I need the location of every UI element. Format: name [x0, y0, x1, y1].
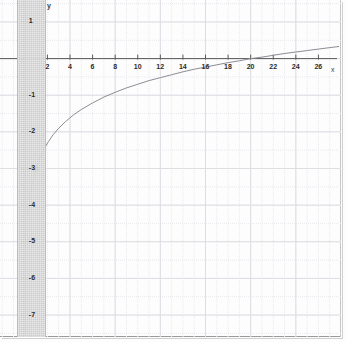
x-tick-label: 4 — [68, 63, 72, 70]
x-axis-label: x — [331, 66, 335, 73]
coordinate-plane-svg — [0, 0, 341, 337]
x-tick-label: 2 — [45, 63, 49, 70]
y-tick-label: -7 — [29, 311, 35, 318]
axes — [0, 0, 337, 335]
x-tick-label: 10 — [134, 63, 142, 70]
y-axis-label: y — [47, 2, 51, 9]
x-tick-label: 8 — [113, 63, 117, 70]
window-frame-right-shadow — [342, 2, 343, 338]
y-tick-label: -6 — [29, 274, 35, 281]
x-tick-label: 12 — [156, 63, 164, 70]
x-tick-label: 16 — [202, 63, 210, 70]
x-tick-label: 18 — [224, 63, 232, 70]
left-shaded-margin-edge-r — [45, 0, 46, 337]
y-tick-label: -5 — [29, 237, 35, 244]
chart-screenshot: 24681012141618202224261-1-2-3-4-5-6-7 y … — [0, 0, 347, 342]
major-gridlines — [0, 0, 341, 337]
y-tick-label: -1 — [29, 91, 35, 98]
x-tick-label: 14 — [179, 63, 187, 70]
y-tick-label: -2 — [29, 127, 35, 134]
y-tick-label: -4 — [29, 201, 35, 208]
y-tick-label: -3 — [29, 164, 35, 171]
x-tick-label: 26 — [314, 63, 322, 70]
y-tick-label: 1 — [29, 17, 33, 24]
x-tick-label: 20 — [247, 63, 255, 70]
window-frame-bottom-shadow — [2, 338, 343, 339]
x-tick-label: 6 — [91, 63, 95, 70]
plot-area — [0, 0, 341, 337]
left-shaded-margin-edge-l — [17, 0, 18, 337]
x-tick-label: 22 — [269, 63, 277, 70]
x-tick-label: 24 — [292, 63, 300, 70]
